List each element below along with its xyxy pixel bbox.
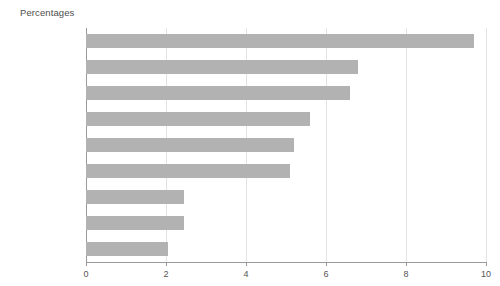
bar-chart: Percentages 0246810 North EastNorth West… — [0, 0, 500, 286]
bar-row: West Midlands — [86, 106, 486, 132]
gridline — [486, 28, 487, 262]
bar — [86, 86, 350, 100]
bar — [86, 138, 294, 152]
bar-row: Yorkshire and the Humber — [86, 80, 486, 106]
bar-row: East Midlands — [86, 158, 486, 184]
x-tick-label: 0 — [83, 269, 88, 279]
x-tick-mark — [406, 262, 407, 266]
x-tick-mark — [486, 262, 487, 266]
bar-row: East — [86, 236, 486, 262]
bar-row: London — [86, 132, 486, 158]
x-tick-label: 4 — [243, 269, 248, 279]
bar-row: North West — [86, 54, 486, 80]
x-tick-mark — [166, 262, 167, 266]
x-axis-line — [86, 262, 486, 263]
x-tick-mark — [246, 262, 247, 266]
bar — [86, 242, 168, 256]
x-tick-label: 2 — [163, 269, 168, 279]
bar — [86, 164, 290, 178]
x-tick-mark — [326, 262, 327, 266]
x-tick-label: 6 — [323, 269, 328, 279]
plot-area: North EastNorth WestYorkshire and the Hu… — [86, 28, 486, 262]
bar — [86, 60, 358, 74]
bar — [86, 112, 310, 126]
chart-title: Percentages — [20, 7, 74, 18]
x-tick-mark — [86, 262, 87, 266]
bar — [86, 34, 474, 48]
x-tick-label: 10 — [481, 269, 491, 279]
bar-row: South West — [86, 184, 486, 210]
bar — [86, 216, 184, 230]
bar-row: North East — [86, 28, 486, 54]
bar-row: South East — [86, 210, 486, 236]
bar — [86, 190, 184, 204]
x-tick-label: 8 — [403, 269, 408, 279]
